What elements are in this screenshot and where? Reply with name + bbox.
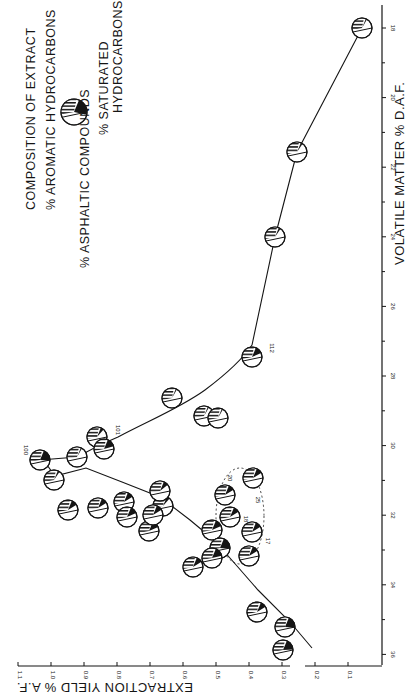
legend-asphaltic-label: % ASPHALTIC COMPOUNDS xyxy=(78,89,92,268)
svg-text:100: 100 xyxy=(23,445,29,456)
pie-point xyxy=(287,142,307,162)
y-axis-title: EXTRACTION YIELD % A.F. xyxy=(16,680,193,695)
pie-point xyxy=(352,18,372,38)
legend-saturated-label-2: HYDROCARBONS xyxy=(111,0,125,113)
svg-text:28: 28 xyxy=(390,373,396,380)
svg-text:0.9: 0.9 xyxy=(83,671,89,680)
pie-point xyxy=(150,481,170,501)
pie-point xyxy=(58,500,78,520)
svg-text:17: 17 xyxy=(265,538,271,545)
pie-point xyxy=(242,347,262,367)
pie-point xyxy=(273,640,293,660)
svg-text:0.8: 0.8 xyxy=(116,671,122,680)
pie-point xyxy=(202,520,222,540)
pie-point xyxy=(275,617,295,637)
svg-text:0.4: 0.4 xyxy=(248,671,254,680)
pie-point xyxy=(208,408,228,428)
legend-saturated-label-1: % SATURATED xyxy=(97,41,111,135)
svg-text:20: 20 xyxy=(227,475,233,482)
svg-text:0.7: 0.7 xyxy=(149,671,155,680)
pie-point xyxy=(202,548,222,568)
pie-point xyxy=(67,447,87,467)
svg-text:0.5: 0.5 xyxy=(215,671,221,680)
pie-point xyxy=(44,470,64,490)
pie-point xyxy=(243,468,263,488)
svg-text:34: 34 xyxy=(390,581,396,588)
pie-point xyxy=(94,439,114,459)
svg-text:25: 25 xyxy=(255,497,261,504)
legend-aromatic-label: % AROMATIC HYDROCARBONS xyxy=(44,9,58,210)
svg-text:0.6: 0.6 xyxy=(182,671,188,680)
svg-text:1.0: 1.0 xyxy=(50,671,56,680)
pie-point xyxy=(239,546,259,566)
pie-point xyxy=(265,227,285,247)
pie-point xyxy=(220,507,240,527)
svg-text:18: 18 xyxy=(390,25,396,32)
pie-point xyxy=(143,505,163,525)
svg-text:0.1: 0.1 xyxy=(347,671,353,680)
x-axis-title: VOLATILE MATTER % D.A.F. xyxy=(392,82,407,265)
svg-text:0.3: 0.3 xyxy=(281,671,287,680)
pie-point xyxy=(162,388,182,408)
svg-text:26: 26 xyxy=(390,303,396,310)
pie-point xyxy=(242,522,262,542)
svg-text:30: 30 xyxy=(390,442,396,449)
svg-text:32: 32 xyxy=(390,512,396,519)
svg-text:112: 112 xyxy=(269,343,275,353)
pie-point xyxy=(30,450,50,470)
svg-text:1.1: 1.1 xyxy=(17,671,23,680)
legend-title: COMPOSITION OF EXTRACT xyxy=(24,27,38,210)
pie-point xyxy=(88,498,108,518)
svg-text:18: 18 xyxy=(243,516,249,523)
pie-point xyxy=(117,507,137,527)
pie-point xyxy=(215,485,235,505)
svg-text:36: 36 xyxy=(390,651,396,658)
svg-text:0.2: 0.2 xyxy=(314,671,320,680)
svg-text:101: 101 xyxy=(115,425,121,436)
pie-point xyxy=(247,602,267,622)
pie-point xyxy=(183,557,203,577)
